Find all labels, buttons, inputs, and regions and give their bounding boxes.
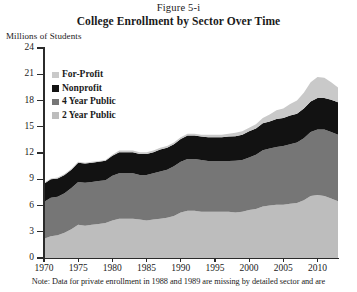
y-axis-label: Millions of Students (6, 31, 82, 41)
legend-label-4-year-public: 4 Year Public (62, 97, 116, 107)
y-tick-label: 6 (0, 200, 34, 210)
y-tick (37, 152, 43, 153)
y-tick-label: 3 (0, 226, 34, 236)
chart-legend: For-Profit Nonprofit 4 Year Public 2 Yea… (52, 68, 116, 122)
x-axis-line (43, 258, 339, 260)
legend-label-2-year-public: 2 Year Public (62, 111, 116, 121)
legend-label-for-profit: For-Profit (62, 70, 103, 80)
figure-container: Figure 5-i College Enrollment by Sector … (0, 0, 357, 292)
y-axis-line (43, 47, 45, 259)
figure-caption: Figure 5-i (0, 2, 357, 13)
x-tick (317, 258, 318, 262)
y-tick (37, 179, 43, 180)
x-tick (249, 258, 250, 262)
x-tick (214, 258, 215, 262)
y-tick (37, 74, 43, 75)
legend-swatch-for-profit (52, 72, 59, 79)
x-tick (180, 258, 181, 262)
x-tick (78, 258, 79, 262)
y-tick-label: 21 (0, 68, 34, 78)
y-tick-label: 12 (0, 147, 34, 157)
legend-swatch-nonprofit (52, 85, 59, 92)
legend-item-for-profit: For-Profit (52, 68, 116, 82)
legend-item-nonprofit: Nonprofit (52, 82, 116, 96)
y-tick-label: 0 (0, 252, 34, 262)
chart-title: College Enrollment by Sector Over Time (0, 15, 357, 27)
legend-label-nonprofit: Nonprofit (62, 84, 102, 94)
y-tick-label: 15 (0, 121, 34, 131)
y-tick (37, 257, 43, 258)
y-tick-label: 9 (0, 173, 34, 183)
figure-note: Note: Data for private enrollment in 198… (0, 277, 357, 286)
y-tick (37, 126, 43, 127)
legend-swatch-4-year-public (52, 99, 59, 106)
x-tick-label: 2010 (297, 263, 337, 273)
x-tick (43, 258, 44, 262)
x-tick (146, 258, 147, 262)
y-tick (37, 47, 43, 48)
y-tick-label: 24 (0, 42, 34, 52)
y-tick-label: 18 (0, 95, 34, 105)
y-tick (37, 100, 43, 101)
y-tick (37, 205, 43, 206)
x-tick (283, 258, 284, 262)
legend-item-2-year-public: 2 Year Public (52, 109, 116, 123)
y-tick (37, 231, 43, 232)
legend-swatch-2-year-public (52, 112, 59, 119)
x-tick (112, 258, 113, 262)
legend-item-4-year-public: 4 Year Public (52, 95, 116, 109)
